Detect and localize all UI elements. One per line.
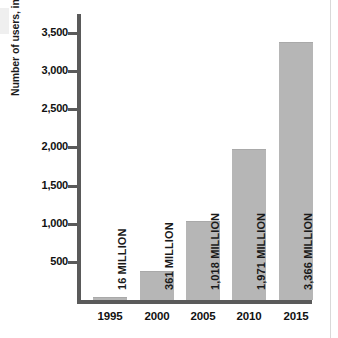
bar: [93, 297, 127, 300]
y-axis-tick: [68, 261, 77, 264]
y-axis-tick-label: 3,000: [41, 64, 68, 76]
y-axis-tick: [68, 146, 77, 149]
plot-area: 16 MILLION1995361 MILLION20001,018 MILLI…: [77, 14, 309, 300]
y-axis-tick: [68, 70, 77, 73]
y-axis-tick-label: 1,500: [41, 179, 68, 191]
scan-artifact: [0, 8, 9, 34]
x-axis-tick-label: 2010: [225, 310, 273, 322]
y-axis-line: [77, 14, 81, 300]
y-axis-tick-label: 2,500: [41, 102, 68, 114]
page-edge-rule: [330, 0, 331, 338]
y-axis-tick-labels: 5001,0001,5002,0002,5003,0003,500: [20, 14, 68, 300]
y-axis-tick: [68, 185, 77, 188]
x-axis-tick-label: 2015: [272, 310, 320, 322]
x-axis-tick-label: 2005: [179, 310, 227, 322]
y-axis-tick: [68, 223, 77, 226]
y-axis-tick-label: 3,500: [41, 26, 68, 38]
x-axis-tick-label: 2000: [133, 310, 181, 322]
bar-value-label: 1,018 MILLION: [209, 213, 221, 290]
y-axis-tick-label: 1,000: [41, 217, 68, 229]
chart-figure: Number of users, in millions 5001,0001,5…: [0, 0, 338, 338]
y-axis-tick: [68, 108, 77, 111]
bar-value-label: 361 MILLION: [163, 222, 175, 290]
x-axis-line: [77, 300, 312, 304]
bar-value-label: 3,366 MILLION: [302, 213, 314, 290]
bar-value-label: 1,971 MILLION: [255, 213, 267, 290]
x-axis-tick-label: 1995: [86, 310, 134, 322]
y-axis-tick: [68, 32, 77, 35]
y-axis-tick-label: 2,000: [41, 140, 68, 152]
bar-value-label: 16 MILLION: [116, 228, 128, 290]
y-axis-tick-label: 500: [50, 255, 68, 267]
